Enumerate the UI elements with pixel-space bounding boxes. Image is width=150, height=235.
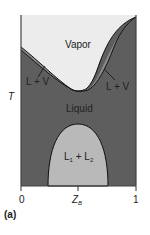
y-axis-label: T: [8, 91, 15, 102]
x-tick-label-1: 1: [133, 194, 139, 205]
x-tick-label-0: 0: [19, 194, 25, 205]
x-axis-label: ZB: [71, 194, 82, 206]
phase-diagram: Vapor L + V L + V Liquid L1 + L2 T 0 1 Z…: [0, 0, 150, 235]
lv-left-label: L + V: [26, 76, 50, 87]
panel-label: (a): [4, 209, 16, 220]
vapor-label: Vapor: [65, 39, 92, 50]
l1-l2-label: L1 + L2: [64, 151, 94, 163]
liquid-label: Liquid: [66, 103, 93, 114]
lv-right-label: L + V: [106, 81, 130, 92]
